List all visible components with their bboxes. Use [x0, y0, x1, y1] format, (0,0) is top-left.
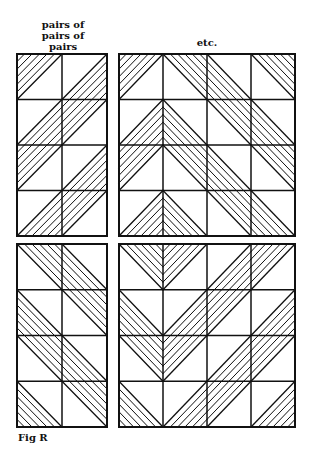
pattern-cell [119, 145, 163, 191]
pattern-cell [17, 145, 62, 191]
pattern-cell [251, 381, 295, 427]
figure-caption: Fig R [18, 432, 48, 443]
pattern-cell [119, 100, 163, 146]
pattern-cell [251, 290, 295, 336]
pattern-cell [119, 191, 163, 237]
pattern-cell [207, 145, 251, 191]
pattern-cell [119, 54, 163, 100]
pattern-cell [207, 244, 251, 290]
pattern-cell [251, 244, 295, 290]
pattern-cell [251, 336, 295, 382]
pattern-cell [251, 100, 295, 146]
pattern-cell [62, 336, 107, 382]
pattern-cell [62, 381, 107, 427]
pattern-cell [62, 145, 107, 191]
panel-bottom-right [119, 244, 295, 427]
pattern-cell [62, 290, 107, 336]
pattern-cell [251, 145, 295, 191]
pattern-cell [119, 244, 163, 290]
pattern-cell [62, 54, 107, 100]
panel-top-right [119, 54, 295, 236]
pattern-cell [62, 191, 107, 237]
pattern-cell [163, 145, 207, 191]
pattern-cell [163, 54, 207, 100]
pattern-cell [251, 54, 295, 100]
hatched-square-pattern-diagram [0, 0, 311, 461]
pattern-cell [207, 191, 251, 237]
pattern-cell [119, 290, 163, 336]
pattern-cell [163, 100, 207, 146]
pattern-cell [207, 100, 251, 146]
pattern-cell [163, 336, 207, 382]
pattern-cell [163, 381, 207, 427]
pattern-cell [207, 54, 251, 100]
pattern-cell [62, 244, 107, 290]
pattern-cell [119, 381, 163, 427]
pattern-cell [17, 244, 62, 290]
pattern-cell [17, 290, 62, 336]
pattern-cell [207, 290, 251, 336]
pattern-cell [163, 290, 207, 336]
pattern-cell [251, 191, 295, 237]
pattern-cell [17, 54, 62, 100]
pattern-cell [163, 191, 207, 237]
pattern-cell [207, 381, 251, 427]
pattern-cell [62, 100, 107, 146]
panel-top-left [17, 54, 107, 236]
pattern-cell [17, 336, 62, 382]
pattern-cell [207, 336, 251, 382]
pattern-cell [17, 381, 62, 427]
panel-bottom-left [17, 244, 107, 427]
pattern-cell [17, 191, 62, 237]
pattern-cell [17, 100, 62, 146]
pattern-cell [119, 336, 163, 382]
pattern-cell [163, 244, 207, 290]
